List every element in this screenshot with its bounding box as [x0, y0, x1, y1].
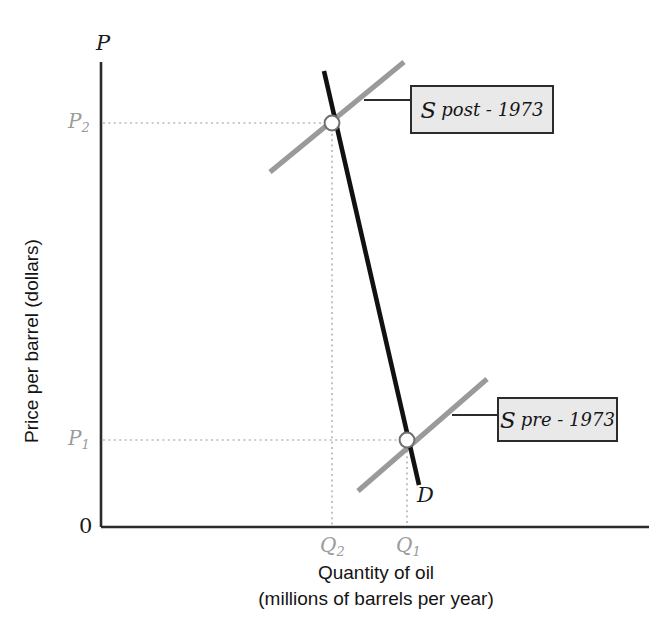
callout-pre-symbol: S: [500, 407, 516, 433]
callout-post-subscript: post - 1973: [441, 99, 543, 120]
tick-label-p2-base: P: [68, 109, 81, 133]
tick-label-q1: Q1: [396, 534, 421, 560]
demand-curve: [324, 71, 419, 485]
callout-pre-subscript: pre - 1973: [521, 409, 615, 430]
y-axis-symbol: P: [96, 31, 110, 55]
callout-post-symbol: S: [421, 97, 437, 123]
tick-label-p1-base: P: [68, 426, 81, 450]
y-axis-title: Price per barrel (dollars): [21, 191, 43, 491]
demand-curve-label: D: [417, 483, 434, 507]
callout-supply-post-1973: Spost - 1973: [410, 85, 554, 134]
supply-curve-pre-1973: [358, 379, 487, 491]
equilibrium-point-pre-1973: [400, 433, 415, 448]
tick-label-p2-subscript: 2: [81, 120, 89, 135]
tick-label-q1-subscript: 1: [412, 544, 420, 559]
tick-label-q2-base: Q: [320, 533, 336, 557]
supply-demand-figure: P 0 D P2 P1 Q2 Q1 Spost - 1973 Spre - 19…: [0, 0, 672, 643]
x-axis-title-line2: (millions of barrels per year): [176, 588, 576, 610]
tick-label-p2: P2: [68, 110, 90, 136]
tick-label-q2: Q2: [320, 534, 345, 560]
equilibrium-point-post-1973: [325, 116, 340, 131]
origin-label: 0: [79, 514, 92, 538]
tick-label-p1: P1: [68, 427, 90, 453]
callout-supply-pre-1973: Spre - 1973: [497, 397, 618, 442]
x-axis-title-line1: Quantity of oil: [176, 562, 576, 584]
tick-label-q2-subscript: 2: [336, 544, 344, 559]
tick-label-q1-base: Q: [396, 533, 412, 557]
tick-label-p1-subscript: 1: [81, 437, 89, 452]
